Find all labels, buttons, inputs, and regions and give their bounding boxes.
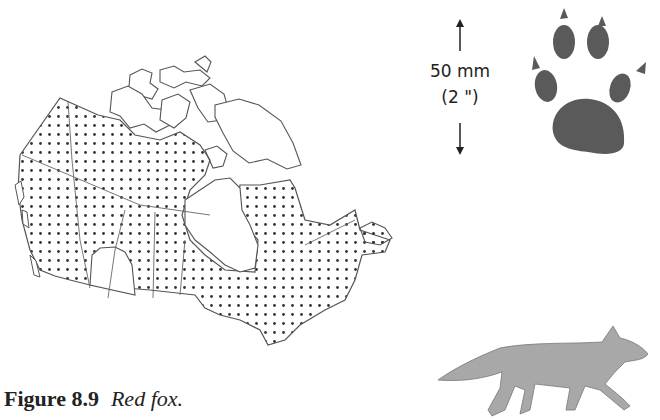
- figure-title: Red fox.: [111, 386, 183, 411]
- figure-number: Figure 8.9: [4, 386, 99, 411]
- scale-bar: 50 mm (2 "): [420, 15, 500, 155]
- scale-metric: 50 mm: [420, 61, 500, 81]
- figure-caption: Figure 8.9Red fox.: [4, 386, 183, 412]
- fox-silhouette-icon: [430, 310, 660, 420]
- arrow-down-icon: [456, 147, 464, 155]
- scale-imperial: (2 "): [420, 87, 500, 107]
- arrow-up-icon: [456, 19, 464, 27]
- paw-print-icon: [528, 4, 660, 160]
- range-map-canada: [0, 40, 400, 380]
